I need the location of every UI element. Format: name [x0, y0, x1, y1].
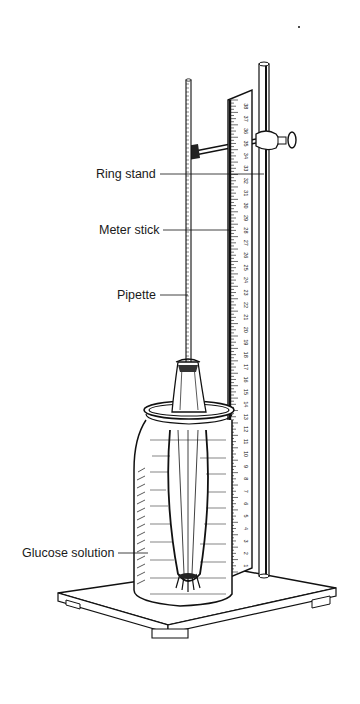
meter-stick-number: 10 [243, 451, 249, 457]
meter-stick-number: 15 [243, 389, 249, 395]
meter-stick-number: 26 [243, 252, 249, 258]
osmosis-apparatus-diagram: 1234567891011121314151617181920212223242… [0, 0, 360, 704]
meter-stick-number: 31 [243, 190, 249, 196]
meter-stick-number: 30 [243, 203, 249, 209]
meter-stick-number: 24 [243, 277, 249, 283]
meter-stick-number: 22 [243, 302, 249, 308]
meter-stick-number: 20 [243, 327, 249, 333]
clamp-thumbscrew-icon [288, 132, 296, 148]
meter-stick-number: 11 [243, 439, 249, 445]
meter-stick-number: 23 [243, 289, 249, 295]
label-glucose-solution: Glucose solution [22, 546, 148, 560]
meter-stick-number: 38 [243, 103, 249, 109]
label-meter-stick: Meter stick [99, 223, 230, 237]
meter-stick-number: 21 [243, 314, 249, 320]
meter-stick-number: 9 [243, 465, 249, 468]
meter-stick-number: 5 [243, 515, 249, 518]
meter-stick-number: 28 [243, 227, 249, 233]
meter-stick-number: 8 [243, 477, 249, 480]
meter-stick-number: 13 [243, 414, 249, 420]
meter-stick-number: 7 [243, 490, 249, 493]
meter-stick-number: 18 [243, 352, 249, 358]
label-pipette: Pipette [117, 288, 188, 302]
meter-stick-number: 16 [243, 376, 249, 382]
meter-stick-number: 6 [243, 502, 249, 505]
meter-stick-number: 4 [243, 527, 249, 530]
meter-stick-number: 3 [243, 539, 249, 542]
meter-stick-number: 19 [243, 339, 249, 345]
meter-stick-number: 32 [243, 178, 249, 184]
meter-stick-number: 2 [243, 552, 249, 555]
svg-text:Pipette: Pipette [117, 288, 156, 302]
meter-stick-number: 37 [243, 116, 249, 122]
stray-dot [298, 26, 300, 28]
pipette [186, 79, 191, 380]
meter-stick-number: 17 [243, 364, 249, 370]
meter-stick-number: 34 [243, 153, 249, 159]
meter-stick-number: 14 [243, 401, 249, 407]
meter-stick-number: 27 [243, 240, 249, 246]
meter-stick-number: 29 [243, 215, 249, 221]
meter-stick-number: 25 [243, 265, 249, 271]
svg-text:Ring stand: Ring stand [96, 167, 156, 181]
meter-stick-number: 1 [243, 564, 249, 567]
meter-stick-number: 12 [243, 426, 249, 432]
meter-stick-number: 35 [243, 140, 249, 146]
meter-stick-number: 33 [243, 165, 249, 171]
svg-text:Meter stick: Meter stick [99, 223, 160, 237]
svg-text:Glucose solution: Glucose solution [22, 546, 114, 560]
meter-stick-number: 36 [243, 128, 249, 134]
